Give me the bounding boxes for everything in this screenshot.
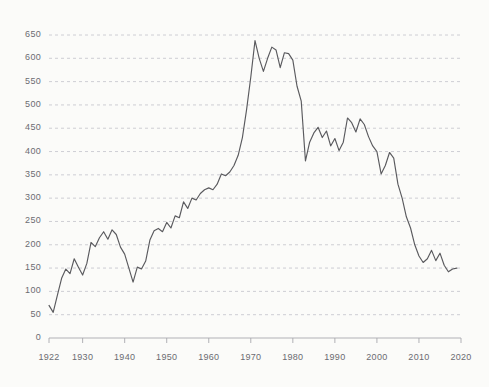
y-tick-label: 600 (7, 52, 41, 62)
chart-canvas (0, 0, 489, 387)
x-tick-label: 2000 (357, 352, 397, 362)
y-tick-label: 450 (7, 122, 41, 132)
y-tick-label: 50 (7, 309, 41, 319)
y-tick-label: 550 (7, 76, 41, 86)
y-tick-label: 0 (7, 332, 41, 342)
y-tick-label: 100 (7, 285, 41, 295)
x-tick-label: 1940 (105, 352, 145, 362)
y-tick-label: 150 (7, 262, 41, 272)
x-tick-label: 1990 (315, 352, 355, 362)
line-chart: 050100150200250300350400450500550600650 … (0, 0, 489, 387)
y-tick-label: 650 (7, 29, 41, 39)
x-tick-label: 2020 (441, 352, 481, 362)
y-tick-label: 250 (7, 215, 41, 225)
x-tick-label: 2010 (399, 352, 439, 362)
x-tick-label: 1960 (189, 352, 229, 362)
x-tick-label: 1930 (63, 352, 103, 362)
x-tick-label: 1950 (147, 352, 187, 362)
y-tick-label: 500 (7, 99, 41, 109)
y-tick-label: 400 (7, 146, 41, 156)
x-tick-label: 1970 (231, 352, 271, 362)
x-axis (49, 338, 461, 343)
x-tick-label: 1980 (273, 352, 313, 362)
y-tick-label: 300 (7, 192, 41, 202)
gridlines (49, 35, 461, 315)
y-tick-label: 350 (7, 169, 41, 179)
y-tick-label: 200 (7, 239, 41, 249)
